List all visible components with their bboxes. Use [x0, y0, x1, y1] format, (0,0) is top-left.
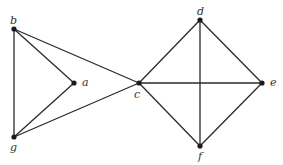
- node-f: [197, 143, 202, 148]
- node-e: [259, 80, 264, 85]
- node-g: [11, 134, 16, 139]
- node-label-c: c: [134, 89, 140, 100]
- node-b: [11, 26, 16, 31]
- node-label-e: e: [270, 77, 277, 88]
- node-c: [136, 80, 141, 85]
- node-a: [71, 80, 76, 85]
- node-label-g: g: [10, 142, 17, 153]
- node-label-b: b: [10, 15, 17, 26]
- node-label-d: d: [197, 6, 204, 17]
- node-d: [197, 17, 202, 22]
- edge-c-d: [139, 20, 200, 83]
- node-label-a: a: [82, 77, 89, 88]
- edge-g-c: [14, 83, 139, 137]
- edge-a-g: [14, 83, 74, 137]
- edge-d-e: [200, 20, 262, 83]
- node-label-f: f: [198, 151, 202, 162]
- graph-diagram: abcdefg: [0, 0, 283, 165]
- graph-canvas: [0, 0, 283, 165]
- edge-e-f: [200, 83, 262, 146]
- edge-b-c: [14, 29, 139, 83]
- edge-c-f: [139, 83, 200, 146]
- edge-b-a: [14, 29, 74, 83]
